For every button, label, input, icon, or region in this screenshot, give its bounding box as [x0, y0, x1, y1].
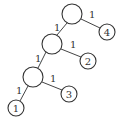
- edge-mid-n2: [61, 49, 81, 57]
- edge-weight-mid-n2: 1: [70, 39, 76, 50]
- node-label-2: 2: [85, 56, 91, 67]
- tree-node-mid: [42, 34, 62, 54]
- edge-root-n4: [81, 19, 100, 28]
- edge-weight-low-n1: 1: [16, 85, 22, 96]
- node-label-4: 4: [104, 27, 110, 38]
- node-label-3: 3: [66, 89, 72, 100]
- node-label-1: 1: [13, 103, 19, 114]
- edge-weight-root-mid: 1: [54, 22, 60, 33]
- edge-weight-root-n4: 1: [89, 9, 95, 20]
- edge-weight-low-n3: 1: [50, 73, 56, 84]
- tree-node-root: [62, 4, 82, 24]
- edge-weight-mid-low: 1: [35, 53, 41, 64]
- tree-diagram: 1 1 1 1 1 1 4 2 3 1: [0, 0, 124, 128]
- tree-node-low: [23, 67, 43, 87]
